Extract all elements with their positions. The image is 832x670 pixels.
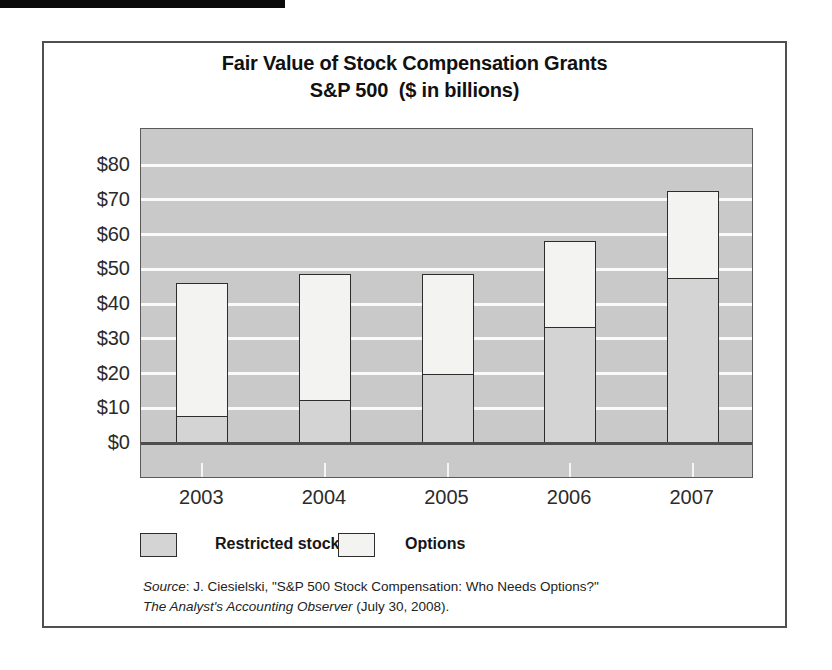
x-tick-2003 <box>201 463 203 477</box>
source-publication: The Analyst's Accounting Observer <box>143 599 352 614</box>
chart-title-line1: Fair Value of Stock Compensation Grants <box>42 50 787 77</box>
gridline-60 <box>141 233 752 236</box>
x-axis-label-2007: 2007 <box>637 486 747 509</box>
bar-segment-options-2004 <box>299 274 351 401</box>
plot-area <box>140 128 753 478</box>
bar-segment-options-2006 <box>544 241 596 328</box>
source-line-2: The Analyst's Accounting Observer (July … <box>143 597 703 617</box>
legend-swatch-options <box>338 533 375 557</box>
bar-segment-options-2007 <box>667 191 719 279</box>
chart-title: Fair Value of Stock Compensation Grants … <box>42 50 787 104</box>
source-line-1: Source: J. Ciesielski, "S&P 500 Stock Co… <box>143 577 703 597</box>
x-tick-2004 <box>324 463 326 477</box>
chart-title-line2: S&P 500 ($ in billions) <box>42 77 787 104</box>
legend-label-options: Options <box>405 535 465 553</box>
scan-artifact-bar <box>0 0 285 8</box>
y-axis-label-20: $20 <box>58 362 130 384</box>
x-tick-2005 <box>447 463 449 477</box>
x-axis-label-2004: 2004 <box>269 486 379 509</box>
gridline-80 <box>141 164 752 167</box>
scanned-page: Fair Value of Stock Compensation Grants … <box>0 0 832 670</box>
source-note: Source: J. Ciesielski, "S&P 500 Stock Co… <box>143 577 703 617</box>
y-axis-label-30: $30 <box>58 327 130 349</box>
bar-segment-restricted-2006 <box>544 327 596 443</box>
bar-segment-restricted-2007 <box>667 278 719 443</box>
source-word: Source <box>143 579 186 594</box>
x-axis-label-2006: 2006 <box>514 486 624 509</box>
x-axis-label-2003: 2003 <box>146 486 256 509</box>
y-axis-label-70: $70 <box>58 188 130 210</box>
x-tick-2007 <box>692 463 694 477</box>
y-axis-label-10: $10 <box>58 396 130 418</box>
bar-segment-restricted-2003 <box>176 415 228 443</box>
gridline-50 <box>141 268 752 271</box>
bar-segment-options-2003 <box>176 283 228 417</box>
bar-segment-restricted-2005 <box>422 374 474 444</box>
gridline-70 <box>141 198 752 201</box>
y-axis-label-40: $40 <box>58 292 130 314</box>
source-line2-text: (July 30, 2008). <box>352 599 449 614</box>
bar-segment-restricted-2004 <box>299 400 351 443</box>
y-axis-label-0: $0 <box>58 431 130 453</box>
y-axis-label-50: $50 <box>58 257 130 279</box>
x-tick-2006 <box>569 463 571 477</box>
y-axis-label-60: $60 <box>58 223 130 245</box>
bar-segment-options-2005 <box>422 274 474 375</box>
source-line1-text: : J. Ciesielski, "S&P 500 Stock Compensa… <box>186 579 599 594</box>
legend-label-restricted-stock: Restricted stock <box>215 535 340 553</box>
x-axis-label-2005: 2005 <box>392 486 502 509</box>
legend-swatch-restricted-stock <box>140 533 177 557</box>
x-axis-zero-line <box>141 442 752 445</box>
y-axis-label-80: $80 <box>58 153 130 175</box>
